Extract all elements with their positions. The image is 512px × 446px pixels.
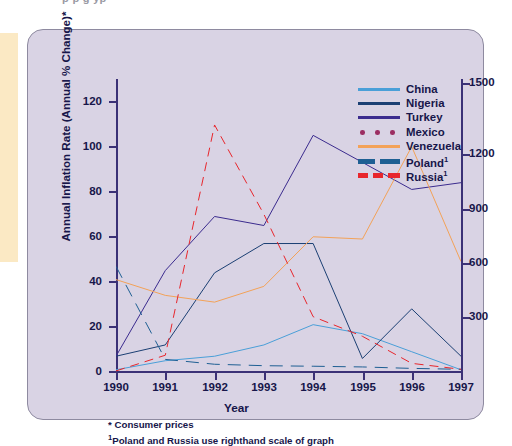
legend-swatch-mexico-icon [358, 125, 400, 139]
legend-swatch-china-icon [358, 82, 400, 96]
x-tick-label-1996: 1996 [388, 381, 436, 393]
figure-page: p p g yp Annual Inflation Rate (Annual %… [0, 0, 512, 446]
y-tick-label-left-0: 0 [56, 366, 102, 377]
legend-item-venezuela[interactable]: Venezuela [358, 140, 478, 154]
footnote-consumer-prices: * Consumer prices [108, 419, 334, 432]
x-tick-label-1993: 1993 [240, 381, 288, 393]
x-tick-label-1991: 1991 [141, 381, 189, 393]
footnote-righthand-scale: 1Poland and Russia use righthand scale o… [108, 432, 334, 446]
x-tick-label-1990: 1990 [92, 381, 140, 393]
y-tick-label-left-80: 80 [56, 186, 102, 197]
series-nigeria [116, 244, 461, 359]
legend-label-poland: Poland1 [406, 154, 448, 169]
y-tick-label-right-300: 300 [469, 311, 512, 322]
legend-swatch-nigeria-icon [358, 97, 400, 111]
y-tick-label-left-40: 40 [56, 276, 102, 287]
legend-item-poland[interactable]: Poland1 [358, 154, 478, 168]
x-axis-title: Year [224, 401, 249, 415]
y-tick-label-left-100: 100 [56, 141, 102, 152]
legend-label-nigeria: Nigeria [406, 98, 445, 109]
legend-item-turkey[interactable]: Turkey [358, 111, 478, 125]
x-tick-label-1994: 1994 [289, 381, 337, 393]
legend-item-mexico[interactable]: Mexico [358, 125, 478, 139]
legend-label-china: China [406, 84, 438, 95]
page-edge-accent-bar [0, 33, 18, 262]
cut-off-header-text: p p g yp [62, 0, 492, 6]
legend-item-china[interactable]: China [358, 82, 478, 96]
legend-swatch-venezuela-icon [358, 140, 400, 154]
legend-label-venezuela: Venezuela [406, 141, 461, 152]
y-tick-label-left-60: 60 [56, 231, 102, 242]
series-china [116, 325, 461, 370]
y-tick-label-right-600: 600 [469, 257, 512, 268]
legend-label-mexico: Mexico [406, 127, 445, 138]
x-tick-label-1997: 1997 [437, 381, 485, 393]
legend-swatch-turkey-icon [358, 111, 400, 125]
figure-footnotes: * Consumer prices 1Poland and Russia use… [108, 419, 334, 446]
legend-label-turkey: Turkey [406, 112, 443, 123]
chart-legend: China Nigeria Turkey Mexico Venezuela Po… [358, 82, 478, 183]
legend-swatch-poland-icon [358, 154, 400, 168]
y-tick-label-left-20: 20 [56, 321, 102, 332]
series-poland [116, 266, 461, 369]
legend-item-nigeria[interactable]: Nigeria [358, 96, 478, 110]
legend-label-russia: Russia1 [406, 168, 448, 183]
chart-panel: Annual Inflation Rate (Annual % Change)*… [27, 29, 484, 420]
legend-item-russia[interactable]: Russia1 [358, 168, 478, 182]
y-tick-label-left-120: 120 [56, 96, 102, 107]
legend-swatch-russia-icon [358, 169, 400, 183]
x-tick-label-1992: 1992 [191, 381, 239, 393]
x-tick-label-1995: 1995 [339, 381, 387, 393]
y-tick-label-right-900: 900 [469, 203, 512, 214]
